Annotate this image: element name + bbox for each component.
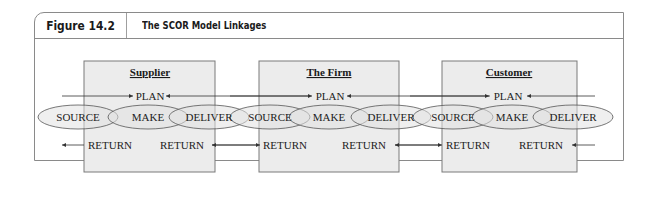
return-label-firm-in: RETURN: [263, 139, 307, 151]
entity-title-supplier: Supplier: [130, 66, 170, 78]
return-label-supplier-out: RETURN: [160, 139, 204, 151]
entity-title-customer: Customer: [486, 66, 533, 78]
make-label-supplier: MAKE: [132, 111, 165, 123]
plan-label-supplier: PLAN: [136, 90, 165, 102]
deliver-label-customer: DELIVER: [549, 111, 597, 123]
plan-label-customer: PLAN: [494, 90, 523, 102]
make-label-customer: MAKE: [496, 111, 529, 123]
entity-title-firm: The Firm: [307, 66, 352, 78]
return-label-supplier-in: RETURN: [88, 139, 132, 151]
source-label-supplier: SOURCE: [56, 111, 100, 123]
deliver-label-firm: DELIVER: [367, 111, 415, 123]
return-label-customer-in: RETURN: [446, 139, 490, 151]
make-label-firm: MAKE: [313, 111, 346, 123]
return-label-firm-out: RETURN: [342, 139, 386, 151]
source-label-customer: SOURCE: [431, 111, 475, 123]
source-label-firm: SOURCE: [248, 111, 292, 123]
return-label-customer-out: RETURN: [519, 139, 563, 151]
scor-diagram: Supplier The Firm Customer PLAN PLAN PLA…: [0, 0, 655, 206]
plan-label-firm: PLAN: [316, 90, 345, 102]
deliver-label-supplier: DELIVER: [185, 111, 233, 123]
